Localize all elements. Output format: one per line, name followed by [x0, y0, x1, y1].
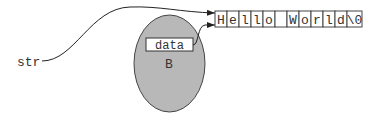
data-field-label: data — [155, 39, 184, 53]
char-cell-label: l — [325, 13, 333, 28]
pointer-diagram: data B str Hello World\0 — [0, 0, 377, 122]
char-cell-label: H — [217, 13, 225, 28]
char-cell-label: l — [253, 13, 261, 28]
char-cell — [275, 11, 287, 27]
object-b-label: B — [165, 57, 173, 72]
str-variable-label: str — [17, 55, 40, 70]
char-cell-label: d — [337, 13, 345, 28]
char-cell-label: l — [241, 13, 249, 28]
char-cell-label: o — [265, 13, 273, 28]
char-cell-label: W — [289, 13, 297, 28]
char-cell-label: o — [301, 13, 309, 28]
char-cell-label: \0 — [347, 13, 363, 28]
char-cell-label: r — [313, 13, 321, 28]
char-cell-label: e — [229, 13, 237, 28]
string-char-array: Hello World\0 — [215, 11, 362, 28]
